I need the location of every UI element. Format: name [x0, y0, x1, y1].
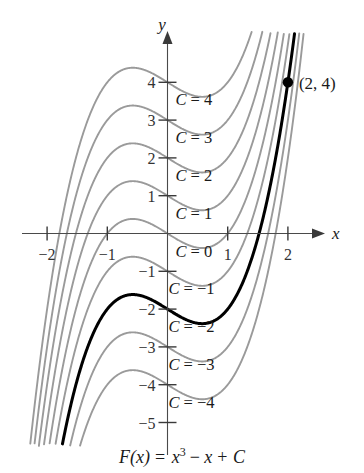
x-tick-label-1: 1 — [224, 246, 232, 263]
curve-label-c-3: C= 3 — [176, 128, 213, 147]
y-tick-label-2: 2 — [148, 150, 156, 167]
x-tick-label-2: 2 — [284, 246, 292, 263]
antiderivative-family-figure: −2−1124321−1−2−3−4−5 y x C= 4C= 3C= 2C= … — [0, 0, 364, 473]
caption-plus: + — [217, 447, 232, 467]
x-tick-label--1: −1 — [99, 246, 116, 263]
curve-label-c-4: C= 4 — [176, 90, 213, 109]
y-tick-label-4: 4 — [148, 74, 156, 91]
caption-argument: (x) — [130, 447, 150, 468]
x-axis-label: x — [331, 224, 340, 243]
y-tick-label-minus5: −5 — [138, 415, 155, 432]
x-tick-label--2: −2 — [39, 246, 56, 263]
y-axis-label: y — [156, 15, 166, 34]
curve-label-c-minus-4: C= −4 — [169, 393, 215, 412]
y-tick-label-minus2: −2 — [138, 301, 155, 318]
y-tick-label-3: 3 — [148, 112, 156, 129]
y-tick-label-minus1: −1 — [138, 263, 155, 280]
curve-label-c-minus-1: C= −1 — [169, 279, 215, 298]
point-marker-2-4 — [283, 77, 293, 87]
curve-label-c-2: C= 2 — [176, 166, 213, 185]
caption-variable: x — [171, 447, 180, 467]
caption-minus: − — [190, 447, 205, 467]
caption-equals: = — [155, 447, 170, 467]
curve-label-c-0: C= 0 — [176, 242, 213, 261]
y-tick-label-minus4: −4 — [138, 377, 155, 394]
caption-exponent: 3 — [180, 445, 186, 459]
curve-label-c-minus-3: C= −3 — [169, 355, 215, 374]
curve-label-c-minus-2: C= −2 — [169, 317, 215, 336]
caption-variable-2: x — [203, 447, 212, 467]
y-tick-label-minus3: −3 — [138, 339, 155, 356]
curve-label-c-1: C= 1 — [176, 204, 213, 223]
y-tick-label-1: 1 — [148, 188, 156, 205]
curve-value-labels: C= 4C= 3C= 2C= 1C= 0C= −1C= −2C= −3C= −4 — [169, 90, 215, 411]
point-label-2-4: (2, 4) — [299, 74, 336, 93]
figure-background — [0, 0, 364, 473]
caption-constant: C — [233, 447, 246, 467]
